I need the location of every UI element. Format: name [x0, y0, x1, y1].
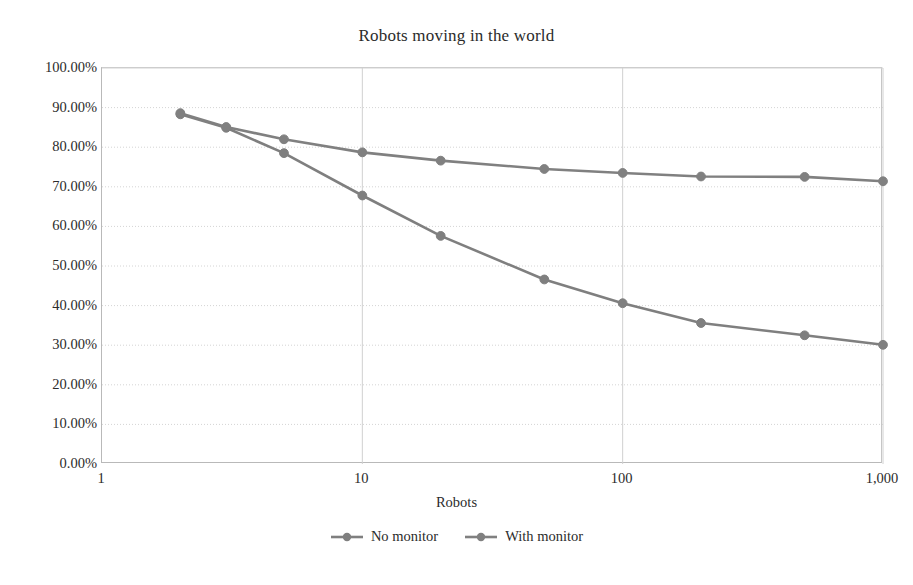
legend-item[interactable]: No monitor [330, 528, 438, 545]
x-tick-label: 10 [354, 470, 369, 487]
legend-item[interactable]: With monitor [464, 528, 583, 545]
chart-container: Robots moving in the world 0.00%10.00%20… [0, 0, 913, 585]
legend-label: With monitor [505, 528, 583, 545]
legend-label: No monitor [371, 528, 438, 545]
chart-legend: No monitorWith monitor [0, 528, 913, 545]
x-tick-label: 1,000 [866, 470, 899, 487]
x-tick-label: 1 [97, 470, 104, 487]
x-axis-title: Robots [0, 494, 913, 511]
legend-marker-icon [464, 531, 498, 543]
legend-marker-icon [330, 531, 364, 543]
x-tick-label: 100 [611, 470, 633, 487]
